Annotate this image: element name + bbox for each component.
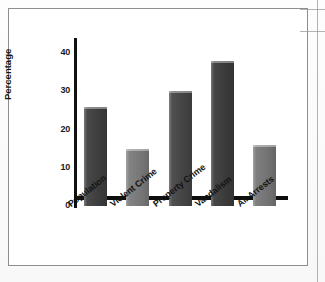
y-axis-tick-30: 30 [48, 85, 70, 95]
bar-chart: Percentage 010203040 PopulationViolent C… [8, 8, 308, 266]
y-axis-tick-40: 40 [48, 47, 70, 57]
bar-shading [253, 145, 276, 206]
bar-top-highlight [84, 107, 107, 109]
y-axis-tick-20: 20 [48, 124, 70, 134]
bar-top-highlight [253, 145, 276, 147]
y-axis-title: Percentage [2, 49, 13, 100]
bar-top-highlight [211, 61, 234, 63]
x-axis-tick-labels: PopulationViolent CrimeProperty CrimeVan… [74, 201, 288, 263]
scan-artifact-vertical-line [317, 0, 318, 282]
bar-all-arrests [253, 145, 276, 206]
bar-top-highlight [169, 91, 192, 93]
y-axis-tick-labels: 010203040 [46, 38, 70, 206]
y-axis-tick-10: 10 [48, 162, 70, 172]
bar-top-highlight [126, 149, 149, 151]
